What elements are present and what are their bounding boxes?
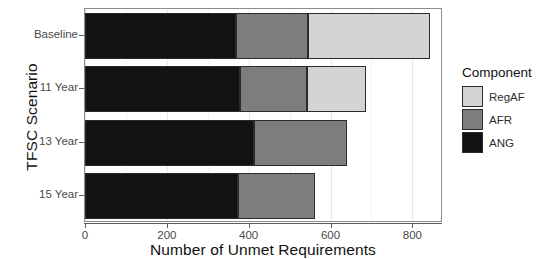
x-tick-label: 800 (403, 229, 422, 241)
bar-segment-regaf (308, 13, 430, 59)
x-tick-label: 400 (239, 229, 258, 241)
bar-segment-ang (85, 13, 236, 59)
x-tick-label: 0 (82, 229, 88, 241)
bar-segment-afr (240, 66, 307, 112)
x-tick-mark (412, 223, 413, 228)
legend-item: AFR (462, 108, 540, 131)
x-tick-mark (85, 223, 86, 228)
y-tick-mark (79, 35, 84, 36)
legend-title: Component (462, 65, 540, 80)
bar-segment-afr (238, 173, 315, 219)
x-axis-line (84, 223, 442, 224)
legend-item: ANG (462, 131, 540, 154)
bar-segment-ang (85, 173, 238, 219)
x-tick-label: 200 (157, 229, 176, 241)
legend-swatch-afr (462, 109, 483, 130)
x-tick-mark (331, 223, 332, 228)
chart-figure: TFSC Scenario Baseline11 Year13 Year15 Y… (0, 0, 542, 259)
plot-panel (84, 8, 442, 222)
x-tick-mark (249, 223, 250, 228)
x-tick-label: 600 (321, 229, 340, 241)
y-tick-label: 13 Year (16, 135, 78, 147)
plot-area (85, 9, 441, 221)
legend-item: RegAF (462, 85, 540, 108)
bar-segment-regaf (307, 66, 366, 112)
legend-swatch-ang (462, 132, 483, 153)
legend-label: ANG (489, 137, 514, 149)
y-tick-label: 15 Year (16, 188, 78, 200)
x-tick-mark (167, 223, 168, 228)
y-tick-mark (79, 142, 84, 143)
x-axis-title: Number of Unmet Requirements (84, 241, 442, 259)
y-tick-label: 11 Year (16, 81, 78, 93)
bar-segment-ang (85, 120, 254, 166)
bar-segment-ang (85, 66, 240, 112)
y-tick-mark (79, 88, 84, 89)
y-tick-mark (79, 195, 84, 196)
legend-swatch-regaf (462, 86, 483, 107)
legend-items: RegAFAFRANG (462, 85, 540, 154)
bar-segment-afr (236, 13, 308, 59)
y-tick-label: Baseline (16, 28, 78, 40)
legend: Component RegAFAFRANG (462, 65, 540, 154)
bar-segment-afr (254, 120, 347, 166)
legend-label: AFR (489, 114, 512, 126)
legend-label: RegAF (489, 91, 525, 103)
y-axis-tick-labels: Baseline11 Year13 Year15 Year (12, 0, 78, 259)
